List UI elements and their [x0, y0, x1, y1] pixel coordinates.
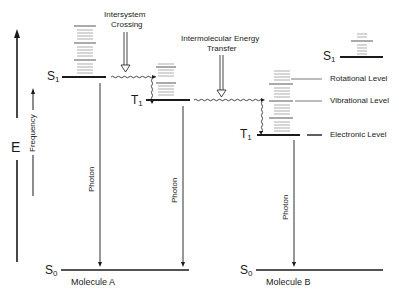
intersystem-crossing-arrow — [121, 32, 130, 72]
molecule-a-t1-label: T1 — [131, 94, 143, 108]
relaxation-wavy-line-b — [261, 102, 262, 132]
molecule-b-s0-label: S0 — [240, 264, 252, 278]
photon-label-b: Photon — [282, 195, 290, 220]
energy-transfer-label-2: Transfer — [207, 45, 237, 53]
molecule-a-s1-sublevels — [74, 26, 96, 73]
frequency-axis-label: Frequency — [29, 114, 37, 152]
nonradiative-wavy-line — [111, 76, 156, 78]
photon-arrows — [98, 83, 296, 267]
legend-rotational: Rotational Level — [330, 75, 387, 83]
energy-axis-label: E — [11, 140, 20, 154]
energy-transfer-label-1: Intermolecular Energy — [181, 35, 259, 43]
photon-label-a2: Photon — [171, 178, 179, 203]
energy-level-diagram — [0, 0, 399, 295]
energy-transfer-arrow — [217, 55, 226, 97]
molecule-b-t1-label: T1 — [240, 128, 252, 142]
molecule-b-t1-sublevels — [269, 71, 293, 131]
arrow-up-icon — [31, 88, 35, 94]
molecule-a-s1-label: S1 — [47, 70, 59, 84]
molecule-b-s1-sublevels — [351, 34, 373, 54]
arrow-right-icon — [152, 75, 156, 79]
legend-vibrational: Vibrational Level — [330, 97, 389, 105]
arrow-down-icon — [98, 262, 102, 267]
legend-electronic: Electronic Level — [330, 131, 386, 139]
photon-label-a1: Photon — [88, 167, 96, 192]
intersystem-crossing-label-2: Crossing — [111, 21, 143, 29]
transfer-wavy-line — [194, 99, 263, 101]
molecule-a-s0-label: S0 — [45, 264, 57, 278]
arrow-down-icon — [292, 262, 296, 267]
molecule-a-t1-sublevels — [156, 64, 176, 95]
arrow-up-icon — [14, 29, 20, 38]
intersystem-crossing-label-1: Intersystem — [104, 11, 145, 19]
molecule-a-label: Molecule A — [71, 278, 115, 287]
molecule-b-s1-label: S1 — [323, 50, 335, 64]
arrow-down-icon — [181, 262, 185, 267]
arrow-right-icon — [261, 98, 265, 102]
molecule-b-label: Molecule B — [266, 278, 311, 287]
